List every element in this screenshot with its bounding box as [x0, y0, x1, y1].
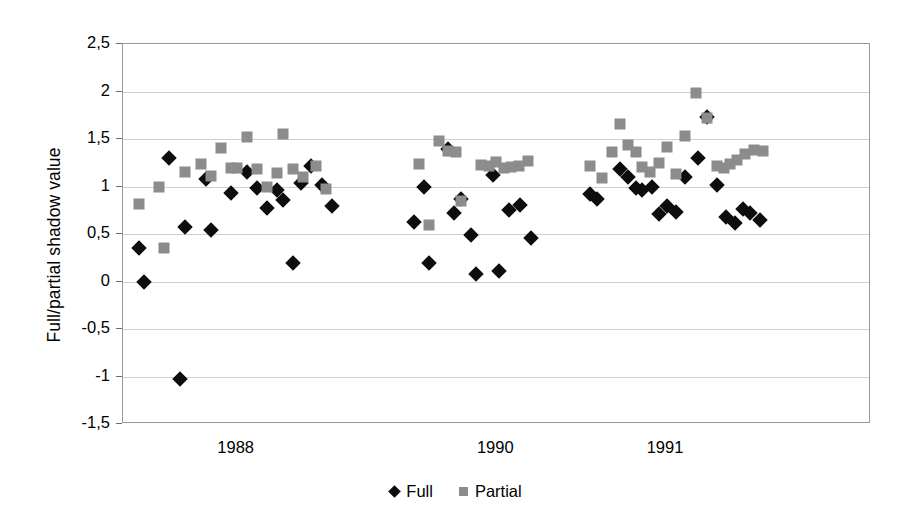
- data-point-full: [612, 162, 628, 178]
- gridline: [123, 92, 869, 93]
- data-point-full: [172, 372, 188, 388]
- y-axis-tick: [116, 233, 122, 234]
- data-point-partial: [661, 141, 672, 152]
- data-point-partial: [607, 147, 618, 158]
- data-point-partial: [732, 154, 743, 165]
- legend-entry-partial: Partial: [459, 482, 522, 501]
- data-point-partial: [498, 162, 509, 173]
- data-point-full: [406, 214, 422, 230]
- data-point-full: [421, 255, 437, 271]
- data-point-full: [659, 199, 675, 215]
- gridline: [123, 329, 869, 330]
- y-axis-tick-label: -1: [95, 367, 110, 384]
- data-point-partial: [711, 160, 722, 171]
- data-point-partial: [584, 160, 595, 171]
- partial-marker-icon: [459, 487, 468, 496]
- y-axis-tick-labels: [0, 0, 110, 526]
- y-axis-tick: [116, 186, 122, 187]
- data-point-full: [512, 197, 528, 213]
- data-point-full: [752, 212, 768, 228]
- data-point-partial: [242, 132, 253, 143]
- data-point-full: [131, 240, 147, 256]
- data-point-full: [690, 150, 706, 166]
- data-point-full: [285, 255, 301, 271]
- y-axis-tick: [116, 43, 122, 44]
- data-point-full: [628, 181, 644, 197]
- y-axis-tick: [116, 91, 122, 92]
- data-point-full: [293, 175, 309, 191]
- y-axis-tick: [116, 281, 122, 282]
- y-axis-tick-label: 0: [101, 272, 110, 289]
- data-point-full: [718, 209, 734, 225]
- data-point-partial: [637, 161, 648, 172]
- data-point-full: [523, 230, 539, 246]
- data-point-full: [485, 167, 501, 183]
- data-point-full: [198, 171, 214, 187]
- data-point-partial: [522, 155, 533, 166]
- data-point-partial: [226, 162, 237, 173]
- data-point-partial: [506, 161, 517, 172]
- data-point-partial: [702, 113, 713, 124]
- y-axis-tick: [116, 138, 122, 139]
- y-axis-tick: [116, 423, 122, 424]
- data-point-partial: [195, 158, 206, 169]
- y-axis-tick-label: 2: [101, 82, 110, 99]
- y-axis-tick-label: -1,5: [82, 414, 110, 431]
- legend-entry-full: Full: [390, 482, 433, 501]
- data-point-full: [275, 192, 291, 208]
- data-point-partial: [456, 195, 467, 206]
- data-point-partial: [414, 158, 425, 169]
- gridline: [123, 187, 869, 188]
- data-point-full: [651, 206, 667, 222]
- data-point-full: [468, 266, 484, 282]
- data-point-full: [324, 198, 340, 214]
- data-point-full: [699, 109, 715, 125]
- y-axis-tick-label: 0,5: [87, 224, 110, 241]
- data-point-partial: [287, 164, 298, 175]
- data-point-full: [742, 205, 758, 221]
- data-point-partial: [476, 159, 487, 170]
- data-point-full: [260, 201, 276, 217]
- data-point-full: [303, 158, 319, 174]
- data-point-partial: [653, 157, 664, 168]
- data-point-partial: [749, 145, 760, 156]
- data-point-full: [314, 177, 330, 193]
- data-point-full: [727, 215, 743, 231]
- data-point-full: [269, 183, 285, 199]
- x-axis-tick-label: 1988: [217, 438, 254, 457]
- data-point-partial: [442, 146, 453, 157]
- data-point-partial: [298, 172, 309, 183]
- data-point-full: [668, 204, 684, 220]
- data-point-full: [453, 191, 469, 207]
- gridline: [123, 282, 869, 283]
- data-point-full: [249, 181, 265, 197]
- data-point-full: [709, 177, 725, 193]
- data-point-partial: [180, 167, 191, 178]
- legend-label-partial: Partial: [475, 482, 522, 501]
- data-point-partial: [491, 156, 502, 167]
- data-point-partial: [423, 220, 434, 231]
- data-point-partial: [597, 172, 608, 183]
- data-point-full: [491, 263, 507, 279]
- data-point-partial: [231, 162, 242, 173]
- data-point-partial: [670, 169, 681, 180]
- scatter-chart: Full/partial shadow value 198819901991 F…: [0, 0, 912, 526]
- data-point-partial: [215, 142, 226, 153]
- full-marker-icon: [388, 485, 401, 498]
- x-axis-tick-label: 1990: [477, 438, 514, 457]
- gridline: [123, 139, 869, 140]
- data-point-partial: [614, 118, 625, 129]
- data-point-partial: [206, 171, 217, 182]
- data-point-partial: [450, 147, 461, 158]
- data-point-full: [177, 220, 193, 236]
- data-point-full: [620, 169, 636, 185]
- data-point-partial: [725, 158, 736, 169]
- data-point-partial: [310, 160, 321, 171]
- y-axis-tick: [116, 376, 122, 377]
- data-point-full: [239, 164, 255, 180]
- data-point-partial: [740, 149, 751, 160]
- data-point-full: [446, 205, 462, 221]
- data-point-full: [162, 150, 178, 166]
- legend-label-full: Full: [406, 482, 433, 501]
- plot-area: [122, 43, 870, 423]
